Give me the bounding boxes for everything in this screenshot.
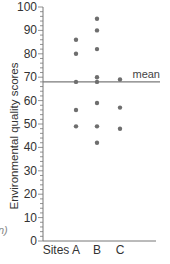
- y-tick-label: 50: [24, 117, 38, 131]
- y-tick-label: 0: [30, 234, 37, 248]
- y-tick-label: 10: [24, 211, 38, 225]
- x-category-label: Sites A: [43, 243, 80, 257]
- mean-line: mean: [43, 68, 160, 82]
- data-point: [118, 105, 122, 109]
- data-point: [95, 80, 99, 84]
- y-axis-title: Environmental quality scores: [8, 62, 20, 209]
- data-point: [95, 124, 99, 128]
- data-point: [95, 47, 99, 51]
- data-point: [118, 126, 122, 130]
- data-point: [95, 28, 99, 32]
- y-tick-label: 80: [24, 47, 38, 61]
- y-tick-label: 60: [24, 94, 38, 108]
- x-category-label: C: [116, 243, 125, 257]
- data-point: [74, 124, 78, 128]
- y-tick-label: 90: [24, 23, 38, 37]
- y-axis: 0102030405060708090100: [17, 0, 43, 248]
- x-axis-categories: Sites ABC: [43, 243, 125, 257]
- y-tick-label: 70: [24, 70, 38, 84]
- data-point: [74, 108, 78, 112]
- y-tick-label: 30: [24, 164, 38, 178]
- y-tick-label: 20: [24, 187, 38, 201]
- mean-label: mean: [132, 68, 160, 80]
- data-points: [74, 17, 122, 145]
- x-category-label: B: [93, 243, 101, 257]
- data-point: [74, 52, 78, 56]
- data-point: [95, 17, 99, 21]
- data-point: [95, 141, 99, 145]
- data-point: [74, 80, 78, 84]
- data-point: [95, 101, 99, 105]
- y-tick-label: 100: [17, 0, 37, 14]
- scatter-chart: 0102030405060708090100 mean Environmenta…: [0, 0, 170, 264]
- data-point: [74, 38, 78, 42]
- data-point: [118, 77, 122, 81]
- data-point: [95, 75, 99, 79]
- y-tick-label: 40: [24, 140, 38, 154]
